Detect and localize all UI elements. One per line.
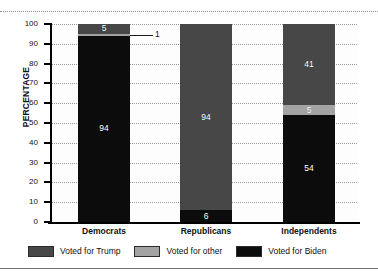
bar-segment-value: 54 bbox=[304, 164, 313, 173]
y-tick-label: 40 bbox=[8, 139, 38, 147]
bar-segment-republicans-voted-for-trump[interactable]: 94 bbox=[180, 24, 232, 210]
bar-segment-value: 5 bbox=[102, 24, 107, 33]
y-tick-mark bbox=[44, 142, 50, 144]
legend-swatch-icon bbox=[134, 246, 160, 257]
bar-segment-democrats-voted-for-biden[interactable]: 94 bbox=[78, 36, 130, 222]
y-tick-label: 30 bbox=[8, 159, 38, 167]
bar-segment-independents-voted-for-other[interactable]: 5 bbox=[283, 105, 335, 115]
stacked-bar-chart-figure: PERCENTAGE 519494641554 1009080706050403… bbox=[0, 0, 378, 276]
y-tick-mark bbox=[44, 102, 50, 104]
y-tick-label: 0 bbox=[8, 218, 38, 226]
legend-item-voted-for-other[interactable]: Voted for other bbox=[134, 246, 236, 257]
legend-swatch-icon bbox=[28, 246, 54, 257]
legend-item-voted-for-trump[interactable]: Voted for Trump bbox=[28, 246, 134, 257]
legend-swatch-icon bbox=[236, 246, 262, 257]
bar-democrats[interactable]: 5194 bbox=[78, 24, 130, 222]
bar-segment-value: 41 bbox=[304, 60, 313, 69]
y-tick-label: 10 bbox=[8, 198, 38, 206]
y-tick-mark bbox=[44, 63, 50, 65]
y-tick-label: 60 bbox=[8, 99, 38, 107]
legend-label: Voted for other bbox=[166, 246, 222, 256]
bar-segment-democrats-voted-for-trump[interactable]: 5 bbox=[78, 24, 130, 34]
callout-label-other-democrats: 1 bbox=[155, 30, 160, 39]
x-category-label-independents: Independents bbox=[259, 226, 359, 236]
x-category-label-democrats: Democrats bbox=[54, 226, 154, 236]
y-tick-mark bbox=[44, 82, 50, 84]
y-axis-line bbox=[50, 23, 52, 223]
y-tick-mark bbox=[44, 162, 50, 164]
bar-segment-value: 94 bbox=[99, 124, 108, 133]
y-tick-mark bbox=[44, 43, 50, 45]
bar-segment-value: 6 bbox=[204, 212, 209, 221]
x-axis-line bbox=[48, 222, 360, 224]
y-tick-label: 90 bbox=[8, 40, 38, 48]
y-tick-label: 70 bbox=[8, 79, 38, 87]
chart-legend: Voted for TrumpVoted for otherVoted for … bbox=[28, 242, 358, 260]
y-tick-mark bbox=[44, 122, 50, 124]
y-tick-mark bbox=[44, 23, 50, 25]
legend-label: Voted for Trump bbox=[60, 246, 120, 256]
bar-segment-independents-voted-for-biden[interactable]: 54 bbox=[283, 115, 335, 222]
y-tick-label: 80 bbox=[8, 60, 38, 68]
y-tick-label: 20 bbox=[8, 178, 38, 186]
y-tick-label: 50 bbox=[8, 119, 38, 127]
y-tick-mark bbox=[44, 181, 50, 183]
y-tick-mark bbox=[44, 221, 50, 223]
legend-label: Voted for Biden bbox=[268, 246, 326, 256]
page-bottom-divider bbox=[0, 268, 378, 269]
bar-segment-independents-voted-for-trump[interactable]: 41 bbox=[283, 24, 335, 105]
y-tick-label: 100 bbox=[8, 20, 38, 28]
y-tick-mark bbox=[44, 201, 50, 203]
bar-segment-value: 5 bbox=[307, 106, 312, 115]
x-category-label-republicans: Republicans bbox=[156, 226, 256, 236]
plot-area: 519494641554 bbox=[50, 24, 357, 222]
bar-segment-value: 94 bbox=[201, 113, 210, 122]
callout-leader-line bbox=[130, 35, 153, 36]
bar-segment-republicans-voted-for-biden[interactable]: 6 bbox=[180, 210, 232, 222]
legend-item-voted-for-biden[interactable]: Voted for Biden bbox=[236, 246, 340, 257]
bar-independents[interactable]: 41554 bbox=[283, 24, 335, 222]
bar-republicans[interactable]: 946 bbox=[180, 24, 232, 222]
